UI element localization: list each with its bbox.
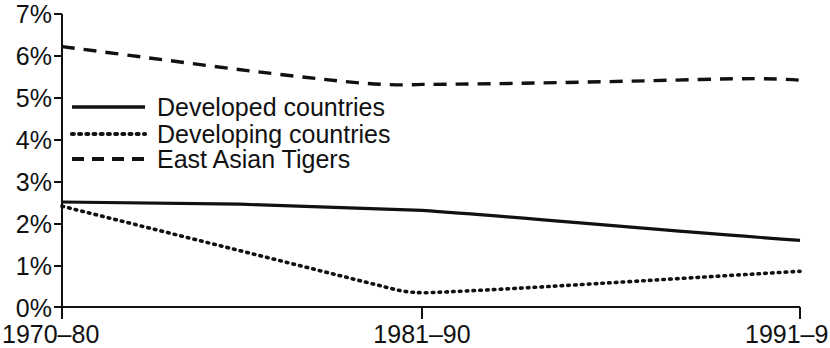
legend-label-developing-countries: Developing countries: [157, 120, 390, 148]
legend-label-east-asian-tigers: East Asian Tigers: [157, 145, 350, 173]
series-line-developing-countries: [62, 206, 800, 293]
y-tick-label: 7%: [16, 0, 52, 28]
legend-label-developed-countries: Developed countries: [157, 93, 385, 121]
chart-canvas: 7% 6% 5% 4% 3% 2% 1% 0%: [0, 0, 830, 348]
legend: Developed countries Developing countries…: [72, 93, 390, 173]
x-tick-label: 1970–80: [2, 320, 99, 348]
y-tick-label: 3%: [16, 168, 52, 196]
y-tick-label: 0%: [16, 294, 52, 322]
x-axis-ticks: [62, 307, 800, 319]
y-tick-label: 5%: [16, 84, 52, 112]
x-tick-label: 1991–9: [745, 320, 828, 348]
y-axis-ticks: [54, 14, 62, 307]
y-axis-tick-labels: 7% 6% 5% 4% 3% 2% 1% 0%: [16, 0, 52, 322]
y-tick-label: 6%: [16, 42, 52, 70]
x-tick-label: 1981–90: [373, 320, 470, 348]
y-tick-label: 1%: [16, 252, 52, 280]
line-chart: 7% 6% 5% 4% 3% 2% 1% 0%: [0, 0, 830, 348]
y-tick-label: 2%: [16, 210, 52, 238]
x-axis-tick-labels: 1970–80 1981–90 1991–9: [2, 320, 828, 348]
y-tick-label: 4%: [16, 126, 52, 154]
series-line-east-asian-tigers: [62, 47, 800, 85]
